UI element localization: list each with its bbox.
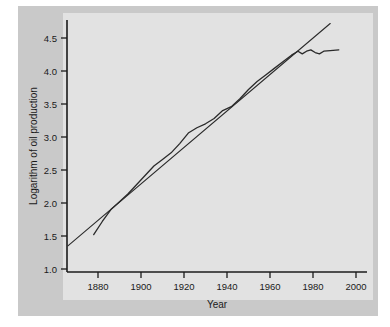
chart-figure: 4.5 4.0 3.5 3.0 2.5 2.0 1.5 1.0 1880 190… (0, 0, 390, 327)
y-tick-label: 1.0 (44, 264, 57, 275)
x-axis-title: Year (207, 299, 228, 310)
x-tick-label: 1900 (130, 281, 151, 292)
x-tick-label: 1880 (87, 281, 108, 292)
y-axis-ticks (61, 38, 67, 269)
y-tick-label: 4.5 (44, 33, 57, 44)
x-axis-tick-labels: 1880 1900 1920 1940 1960 1980 2000 (87, 281, 366, 292)
y-tick-label: 4.0 (44, 66, 57, 77)
x-tick-label: 1960 (259, 281, 280, 292)
x-tick-label: 1920 (173, 281, 194, 292)
y-tick-label: 1.5 (44, 231, 57, 242)
x-tick-label: 1980 (302, 281, 323, 292)
oil-production-series (94, 50, 339, 235)
x-axis-ticks (98, 272, 356, 278)
y-axis-title: Logarithm of oil production (28, 87, 39, 205)
trend-line-series (68, 23, 330, 245)
y-tick-label: 3.0 (44, 132, 57, 143)
y-tick-label: 3.5 (44, 99, 57, 110)
chart-canvas: 4.5 4.0 3.5 3.0 2.5 2.0 1.5 1.0 1880 190… (0, 0, 390, 327)
x-tick-label: 2000 (345, 281, 366, 292)
y-tick-label: 2.5 (44, 165, 57, 176)
y-axis-tick-labels: 4.5 4.0 3.5 3.0 2.5 2.0 1.5 1.0 (44, 33, 57, 275)
x-tick-label: 1940 (216, 281, 237, 292)
y-tick-label: 2.0 (44, 198, 57, 209)
